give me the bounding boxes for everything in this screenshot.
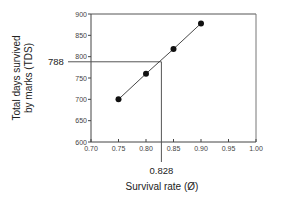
reference-lines: 7880.828: [48, 56, 173, 176]
y-axis-ticks: 600650700750800850900: [75, 11, 91, 146]
x-tick-label: 0.90: [194, 145, 208, 152]
y-tick-label: 900: [75, 11, 87, 18]
data-point-marker: [116, 96, 122, 102]
data-point-marker: [198, 20, 204, 26]
plot-frame: [91, 14, 256, 142]
x-tick-label: 0.95: [222, 145, 236, 152]
y-axis-label: Total days survived: [11, 35, 22, 120]
x-tick-label: 0.75: [112, 145, 126, 152]
x-axis-label: Survival rate (Ø): [126, 181, 199, 192]
y-tick-label: 650: [75, 117, 87, 124]
y-tick-label: 800: [75, 53, 87, 60]
reference-label-y: 788: [48, 56, 64, 67]
x-tick-label: 0.80: [139, 145, 153, 152]
y-tick-label: 750: [75, 75, 87, 82]
x-tick-label: 0.85: [167, 145, 181, 152]
y-axis-label-line2: by marks (TDS): [23, 43, 34, 113]
data-point-marker: [171, 46, 177, 52]
x-tick-label: 0.70: [84, 145, 98, 152]
reference-label-x: 0.828: [150, 165, 174, 176]
chart-canvas: 600650700750800850900 0.700.750.800.850.…: [0, 0, 282, 211]
data-point-marker: [143, 71, 149, 77]
y-tick-label: 850: [75, 32, 87, 39]
x-tick-label: 1.00: [249, 145, 263, 152]
x-axis-ticks: 0.700.750.800.850.900.951.00: [84, 139, 263, 152]
y-tick-label: 700: [75, 96, 87, 103]
